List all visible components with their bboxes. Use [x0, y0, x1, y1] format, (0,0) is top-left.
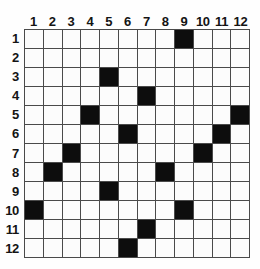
matrix-cell-r9-c1[interactable] — [25, 182, 43, 200]
matrix-cell-r10-c1[interactable] — [25, 201, 43, 219]
matrix-cell-r2-c1[interactable] — [25, 49, 43, 67]
matrix-cell-r3-c2[interactable] — [44, 68, 62, 86]
matrix-cell-r6-c8[interactable] — [156, 125, 174, 143]
matrix-cell-r11-c5[interactable] — [100, 220, 118, 238]
matrix-cell-r1-c9[interactable] — [175, 30, 193, 48]
matrix-cell-r5-c4[interactable] — [81, 106, 99, 124]
matrix-cell-r4-c10[interactable] — [194, 87, 212, 105]
matrix-cell-r9-c8[interactable] — [156, 182, 174, 200]
matrix-cell-r12-c1[interactable] — [25, 239, 43, 257]
matrix-cell-r1-c5[interactable] — [100, 30, 118, 48]
matrix-cell-r5-c6[interactable] — [119, 106, 137, 124]
matrix-cell-r11-c7[interactable] — [138, 220, 156, 238]
matrix-cell-r2-c7[interactable] — [138, 49, 156, 67]
matrix-cell-r9-c11[interactable] — [213, 182, 231, 200]
matrix-cell-r8-c2[interactable] — [44, 163, 62, 181]
matrix-cell-r7-c1[interactable] — [25, 144, 43, 162]
matrix-cell-r5-c9[interactable] — [175, 106, 193, 124]
matrix-cell-r2-c3[interactable] — [63, 49, 81, 67]
matrix-cell-r1-c11[interactable] — [213, 30, 231, 48]
matrix-cell-r6-c7[interactable] — [138, 125, 156, 143]
matrix-cell-r9-c3[interactable] — [63, 182, 81, 200]
matrix-cell-r4-c5[interactable] — [100, 87, 118, 105]
matrix-cell-r1-c6[interactable] — [119, 30, 137, 48]
matrix-cell-r11-c11[interactable] — [213, 220, 231, 238]
matrix-cell-r7-c2[interactable] — [44, 144, 62, 162]
matrix-cell-r12-c9[interactable] — [175, 239, 193, 257]
matrix-cell-r2-c11[interactable] — [213, 49, 231, 67]
matrix-cell-r2-c2[interactable] — [44, 49, 62, 67]
matrix-cell-r10-c9[interactable] — [175, 201, 193, 219]
matrix-cell-r5-c1[interactable] — [25, 106, 43, 124]
matrix-cell-r11-c12[interactable] — [231, 220, 249, 238]
matrix-cell-r3-c4[interactable] — [81, 68, 99, 86]
matrix-cell-r12-c8[interactable] — [156, 239, 174, 257]
matrix-cell-r1-c1[interactable] — [25, 30, 43, 48]
matrix-cell-r8-c9[interactable] — [175, 163, 193, 181]
matrix-cell-r3-c6[interactable] — [119, 68, 137, 86]
matrix-cell-r4-c3[interactable] — [63, 87, 81, 105]
matrix-cell-r6-c1[interactable] — [25, 125, 43, 143]
matrix-cell-r3-c9[interactable] — [175, 68, 193, 86]
matrix-cell-r9-c6[interactable] — [119, 182, 137, 200]
matrix-cell-r10-c11[interactable] — [213, 201, 231, 219]
matrix-cell-r5-c10[interactable] — [194, 106, 212, 124]
matrix-cell-r8-c10[interactable] — [194, 163, 212, 181]
matrix-cell-r12-c5[interactable] — [100, 239, 118, 257]
matrix-cell-r8-c7[interactable] — [138, 163, 156, 181]
matrix-cell-r11-c4[interactable] — [81, 220, 99, 238]
matrix-cell-r11-c2[interactable] — [44, 220, 62, 238]
matrix-cell-r8-c6[interactable] — [119, 163, 137, 181]
matrix-cell-r4-c7[interactable] — [138, 87, 156, 105]
matrix-cell-r4-c12[interactable] — [231, 87, 249, 105]
matrix-cell-r12-c2[interactable] — [44, 239, 62, 257]
matrix-cell-r9-c7[interactable] — [138, 182, 156, 200]
matrix-cell-r7-c6[interactable] — [119, 144, 137, 162]
matrix-cell-r4-c2[interactable] — [44, 87, 62, 105]
matrix-cell-r4-c9[interactable] — [175, 87, 193, 105]
matrix-cell-r2-c9[interactable] — [175, 49, 193, 67]
matrix-cell-r2-c6[interactable] — [119, 49, 137, 67]
matrix-cell-r8-c4[interactable] — [81, 163, 99, 181]
matrix-cell-r4-c6[interactable] — [119, 87, 137, 105]
matrix-cell-r11-c3[interactable] — [63, 220, 81, 238]
matrix-cell-r6-c10[interactable] — [194, 125, 212, 143]
matrix-cell-r3-c8[interactable] — [156, 68, 174, 86]
matrix-cell-r5-c8[interactable] — [156, 106, 174, 124]
matrix-cell-r5-c11[interactable] — [213, 106, 231, 124]
matrix-cell-r4-c1[interactable] — [25, 87, 43, 105]
matrix-cell-r11-c1[interactable] — [25, 220, 43, 238]
matrix-cell-r1-c8[interactable] — [156, 30, 174, 48]
matrix-cell-r9-c10[interactable] — [194, 182, 212, 200]
matrix-cell-r10-c12[interactable] — [231, 201, 249, 219]
matrix-cell-r1-c4[interactable] — [81, 30, 99, 48]
matrix-cell-r12-c3[interactable] — [63, 239, 81, 257]
matrix-cell-r3-c5[interactable] — [100, 68, 118, 86]
matrix-cell-r7-c11[interactable] — [213, 144, 231, 162]
matrix-cell-r6-c11[interactable] — [213, 125, 231, 143]
matrix-cell-r6-c12[interactable] — [231, 125, 249, 143]
matrix-cell-r6-c2[interactable] — [44, 125, 62, 143]
matrix-cell-r2-c10[interactable] — [194, 49, 212, 67]
matrix-cell-r2-c12[interactable] — [231, 49, 249, 67]
matrix-cell-r10-c6[interactable] — [119, 201, 137, 219]
matrix-cell-r12-c6[interactable] — [119, 239, 137, 257]
matrix-cell-r2-c4[interactable] — [81, 49, 99, 67]
matrix-cell-r10-c8[interactable] — [156, 201, 174, 219]
matrix-cell-r9-c9[interactable] — [175, 182, 193, 200]
matrix-cell-r5-c2[interactable] — [44, 106, 62, 124]
matrix-cell-r10-c4[interactable] — [81, 201, 99, 219]
matrix-cell-r11-c6[interactable] — [119, 220, 137, 238]
matrix-cell-r1-c2[interactable] — [44, 30, 62, 48]
matrix-cell-r7-c3[interactable] — [63, 144, 81, 162]
matrix-cell-r10-c5[interactable] — [100, 201, 118, 219]
matrix-cell-r11-c9[interactable] — [175, 220, 193, 238]
matrix-cell-r4-c11[interactable] — [213, 87, 231, 105]
matrix-cell-r7-c9[interactable] — [175, 144, 193, 162]
matrix-cell-r3-c3[interactable] — [63, 68, 81, 86]
matrix-cell-r8-c1[interactable] — [25, 163, 43, 181]
matrix-cell-r5-c7[interactable] — [138, 106, 156, 124]
matrix-cell-r3-c11[interactable] — [213, 68, 231, 86]
matrix-cell-r10-c3[interactable] — [63, 201, 81, 219]
matrix-cell-r3-c12[interactable] — [231, 68, 249, 86]
